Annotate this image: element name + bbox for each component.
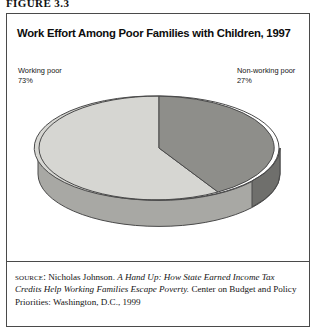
source-author: Nicholas Johnson. [46,272,117,282]
chart-title: Work Effort Among Poor Families with Chi… [17,27,302,39]
chart-area: Work Effort Among Poor Families with Chi… [7,14,309,262]
source-keyword: source: [15,271,46,282]
source-note: source: Nicholas Johnson. A Hand Up: How… [7,262,309,308]
pie-chart [33,70,285,255]
figure-number: FIGURE 3.3 [6,0,69,10]
figure-panel: Work Effort Among Poor Families with Chi… [6,13,310,327]
pie-chart-svg [33,70,285,255]
